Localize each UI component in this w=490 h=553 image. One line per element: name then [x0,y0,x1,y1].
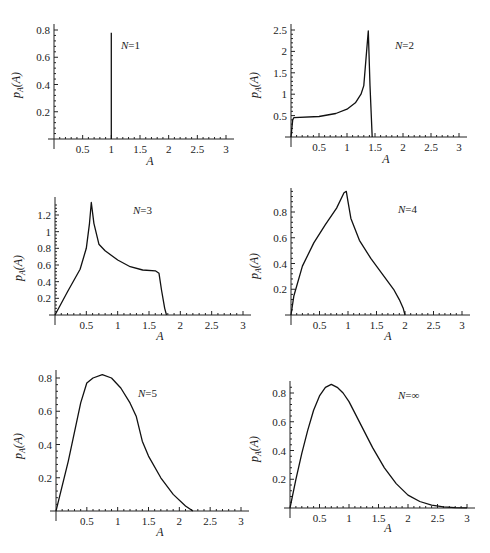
x-tick-label: 2.5 [431,512,445,524]
y-tick-label: 0.2 [272,473,286,485]
x-tick-label: 2 [400,141,406,153]
x-tick-label: 3 [223,143,229,155]
y-tick-label: 1.5 [273,67,287,79]
x-tick-label: 1 [109,143,115,155]
y-tick-label: 0.6 [272,416,286,428]
density-curve [55,203,167,316]
x-axis-label: A [155,329,164,343]
density-curve [291,191,405,315]
x-tick-label: 0.5 [80,515,94,527]
y-tick-label: 0.6 [273,232,287,244]
x-tick-label: 1 [115,319,121,331]
y-tick-label: 0.4 [38,439,52,451]
x-tick-label: 1.5 [368,141,382,153]
x-tick-label: 2 [178,319,184,331]
y-tick-label: 0.2 [37,292,51,304]
y-tick-label: 0.4 [36,79,50,91]
x-tick-label: 1 [345,319,351,331]
x-axis-label: A [383,521,392,535]
x-tick-label: 1.5 [133,143,147,155]
x-axis-label: A [381,152,390,166]
x-tick-label: 0.5 [76,143,90,155]
x-tick-label: 0.5 [312,141,326,153]
x-tick-label: 2.5 [203,515,217,527]
x-tick-label: 2.5 [424,141,438,153]
chart-panel-6: 0.511.522.530.20.40.60.8N=∞ApA(A) [247,381,475,535]
x-tick-label: 1 [344,141,350,153]
x-tick-label: 2.5 [205,319,219,331]
x-tick-label: 0.5 [313,512,327,524]
x-axis-label: A [383,329,392,343]
y-tick-label: 1 [46,226,52,238]
y-tick-label: 0.2 [273,283,287,295]
x-axis-label: A [155,525,164,539]
density-curve [291,31,372,137]
x-axis-label: A [145,154,154,168]
y-tick-label: 0.8 [272,387,286,399]
chart-panel-3: 0.511.522.530.20.40.60.811.2N=3ApA(A) [11,197,251,343]
y-axis-label: pA(A) [11,255,27,282]
figure-canvas: 0.511.522.530.20.40.60.8N=1ApA(A)0.511.5… [0,0,490,553]
y-tick-label: 0.2 [38,472,52,484]
y-tick-label: 0.4 [272,445,286,457]
y-tick-label: 0.5 [273,110,287,122]
y-axis-label: pA(A) [247,72,263,99]
n-label: N=5 [137,387,158,399]
x-tick-label: 2.5 [427,319,441,331]
n-label: N=2 [394,39,414,51]
x-tick-label: 2 [166,143,172,155]
x-tick-label: 1 [115,515,121,527]
y-axis-label: pA(A) [247,436,263,463]
y-tick-label: 1 [282,88,288,100]
n-label: N=3 [132,204,153,216]
x-tick-label: 0.5 [79,319,93,331]
y-tick-label: 0.6 [36,51,50,63]
x-tick-label: 2.5 [190,143,204,155]
y-tick-label: 2 [282,45,288,57]
x-tick-label: 1.5 [142,319,156,331]
x-tick-label: 0.5 [313,319,327,331]
n-label: N=1 [120,39,140,51]
chart-panel-5: 0.511.522.530.20.40.60.8N=5ApA(A) [11,370,249,539]
density-curve [56,375,193,511]
x-tick-label: 3 [459,319,465,331]
n-label: N=∞ [397,389,420,401]
x-tick-label: 1 [346,512,352,524]
y-tick-label: 2.5 [273,24,287,36]
x-tick-label: 1.5 [370,319,384,331]
y-tick-label: 0.8 [273,206,287,218]
x-tick-label: 1.5 [142,515,156,527]
y-tick-label: 0.8 [37,242,51,254]
y-tick-label: 0.4 [273,258,287,270]
x-tick-label: 2 [402,319,408,331]
x-tick-label: 2 [177,515,183,527]
x-tick-label: 3 [238,515,244,527]
x-tick-label: 3 [464,512,470,524]
y-axis-label: pA(A) [11,433,27,460]
y-tick-label: 0.6 [37,259,51,271]
y-tick-label: 0.6 [38,405,52,417]
y-tick-label: 0.8 [38,372,52,384]
y-axis-label: pA(A) [9,72,25,99]
y-tick-label: 0.2 [36,106,50,118]
y-tick-label: 0.8 [36,24,50,36]
chart-panel-2: 0.511.522.530.511.522.5N=2ApA(A) [247,24,467,166]
x-tick-label: 3 [240,319,246,331]
chart-panel-1: 0.511.522.530.20.40.60.8N=1ApA(A) [9,24,234,168]
x-tick-label: 3 [456,141,462,153]
x-tick-label: 2 [405,512,411,524]
chart-panel-4: 0.511.522.530.20.40.60.8N=4ApA(A) [247,188,470,343]
y-tick-label: 1.2 [37,209,51,221]
y-axis-label: pA(A) [247,253,263,280]
density-curve [290,384,467,508]
y-tick-label: 0.4 [37,276,51,288]
n-label: N=4 [397,203,418,215]
